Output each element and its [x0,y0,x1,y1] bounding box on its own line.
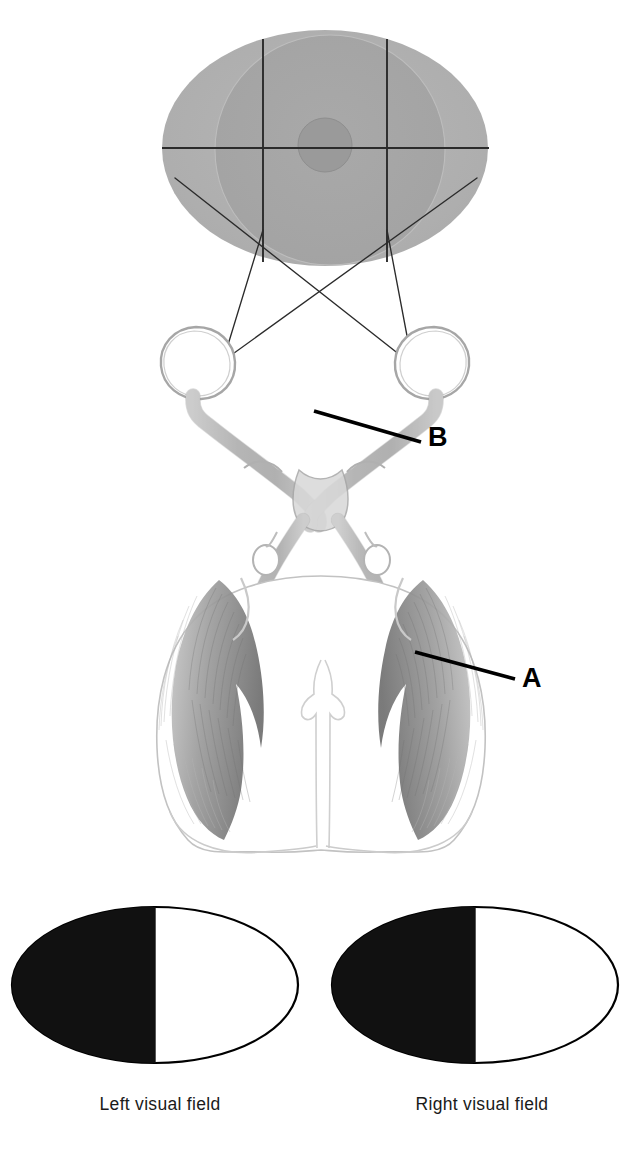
right-eye [395,327,469,399]
callout-label-b: B [428,424,448,451]
callout-label-a: A [522,665,542,692]
right-mammillary-body [364,545,390,575]
left-visual-field-oval [12,907,298,1063]
left-eye [161,327,235,399]
visual-pathway-figure: A B Left visual field Right visual field [0,0,642,1155]
left-visual-field-caption: Left visual field [0,1094,320,1115]
visual-field-disc [162,30,489,266]
right-visual-field-oval [332,907,618,1063]
visual-field-ovals [12,907,618,1063]
right-eye-globe-outline [395,327,469,399]
fovea-circle [298,118,352,172]
diagram-canvas [0,0,642,1155]
left-eye-globe-outline [161,327,235,399]
brain-cortex [157,576,485,853]
right-visual-field-caption: Right visual field [322,1094,642,1115]
callout-leader-B [314,411,421,442]
eyeballs [161,327,469,399]
left-mammillary-body [253,545,279,575]
